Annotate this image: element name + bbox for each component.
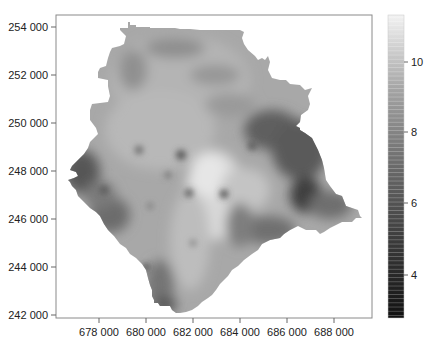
y-tick-label: 248 000 — [8, 165, 48, 177]
x-tick-label: 682 000 — [173, 326, 213, 338]
colorbar-tick-label: 4 — [411, 269, 417, 281]
y-tick-250000: 250 000 — [8, 117, 56, 129]
x-tick-label: 684 000 — [220, 326, 260, 338]
colorbar: 10 8 6 4 — [388, 15, 423, 318]
y-tick-252000: 252 000 — [8, 69, 56, 81]
colorbar-tick-8: 8 — [404, 126, 417, 138]
x-tick-688000: 688 000 — [314, 318, 354, 338]
x-axis: 678 000 680 000 682 000 684 000 686 000 … — [79, 318, 354, 338]
raster-map-chart: 254 000 252 000 250 000 248 000 246 000 … — [0, 0, 434, 351]
colorbar-tick-label: 10 — [411, 56, 423, 68]
colorbar-tick-10: 10 — [404, 56, 423, 68]
y-tick-246000: 246 000 — [8, 213, 56, 225]
x-tick-686000: 686 000 — [267, 318, 307, 338]
y-tick-248000: 248 000 — [8, 165, 56, 177]
x-tick-680000: 680 000 — [126, 318, 166, 338]
y-tick-label: 252 000 — [8, 69, 48, 81]
x-tick-682000: 682 000 — [173, 318, 213, 338]
y-tick-label: 250 000 — [8, 117, 48, 129]
y-tick-242000: 242 000 — [8, 309, 56, 321]
x-tick-label: 680 000 — [126, 326, 166, 338]
x-tick-678000: 678 000 — [79, 318, 119, 338]
x-tick-684000: 684 000 — [220, 318, 260, 338]
y-tick-label: 254 000 — [8, 21, 48, 33]
y-tick-label: 242 000 — [8, 309, 48, 321]
colorbar-tick-6: 6 — [404, 197, 417, 209]
colorbar-tick-label: 8 — [411, 126, 417, 138]
y-axis: 254 000 252 000 250 000 248 000 246 000 … — [8, 21, 56, 321]
y-tick-254000: 254 000 — [8, 21, 56, 33]
y-tick-label: 244 000 — [8, 261, 48, 273]
y-tick-label: 246 000 — [8, 213, 48, 225]
x-tick-label: 688 000 — [314, 326, 354, 338]
y-tick-244000: 244 000 — [8, 261, 56, 273]
x-tick-label: 678 000 — [79, 326, 119, 338]
colorbar-tick-label: 6 — [411, 197, 417, 209]
x-tick-label: 686 000 — [267, 326, 307, 338]
colorbar-tick-4: 4 — [404, 269, 417, 281]
